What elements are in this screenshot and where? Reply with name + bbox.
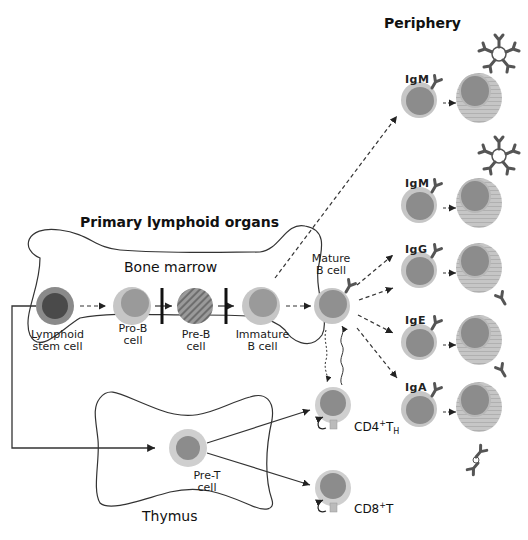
isotype-label-iga: IgA bbox=[405, 381, 427, 394]
lymphoid-stem-cell-label: Lymphoid stem cell bbox=[30, 329, 85, 353]
thymus-label: Thymus bbox=[142, 508, 198, 524]
pre-b-cell-label: Pre-B cell bbox=[175, 329, 217, 353]
isotype-label-ige: IgE bbox=[405, 314, 426, 327]
diagram-canvas bbox=[0, 0, 528, 540]
pre-t-cell-label: Pre-T cell bbox=[188, 470, 226, 494]
pro-b-cell-label: Pro-B cell bbox=[112, 323, 154, 347]
immature-b-cell-label: Immature B cell bbox=[235, 329, 290, 353]
isotype-label-igm-2: IgM bbox=[405, 177, 429, 190]
cd4-th-label: CD4+TH bbox=[354, 419, 399, 436]
mature-b-cell-label: Mature B cell bbox=[306, 253, 356, 277]
bone-marrow-outline bbox=[28, 226, 324, 344]
isotype-label-igg: IgG bbox=[405, 243, 428, 256]
isotype-label-igm-1: IgM bbox=[405, 73, 429, 86]
bone-marrow-label: Bone marrow bbox=[124, 259, 217, 275]
primary-lymphoid-organs-heading: Primary lymphoid organs bbox=[80, 214, 279, 230]
lineage-iga bbox=[401, 382, 502, 475]
cd8-t-label: CD8+T bbox=[354, 501, 393, 516]
periphery-heading: Periphery bbox=[384, 15, 461, 31]
